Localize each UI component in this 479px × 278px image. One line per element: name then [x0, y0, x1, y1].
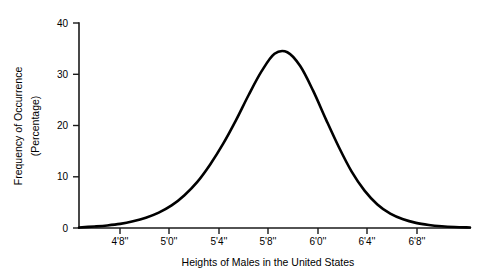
y-axis-title-line1: Frequency of Occurrence: [12, 67, 24, 186]
x-tick-label-4-8: 4'8'': [112, 236, 129, 247]
x-tick-label-5-0: 5'0'': [161, 236, 178, 247]
x-axis-title: Heights of Males in the United States: [182, 256, 355, 268]
x-tick-label-6-0: 6'0'': [310, 236, 327, 247]
x-tick-label-6-8: 6'8'': [409, 236, 426, 247]
x-tick-label-6-4: 6'4'': [359, 236, 376, 247]
x-tick-label-5-8: 5'8'': [260, 236, 277, 247]
y-tick-label-10: 10: [57, 171, 69, 182]
y-tick-label-20: 20: [57, 120, 69, 131]
x-tick-marks: [120, 228, 417, 234]
y-tick-marks: [73, 23, 79, 228]
frequency-curve: [79, 51, 470, 228]
chart-figure: 0 10 20 30 40 4'8'' 5'0'' 5'4'' 5'8'' 6'…: [0, 0, 479, 278]
normal-distribution-chart: 0 10 20 30 40 4'8'' 5'0'' 5'4'' 5'8'' 6'…: [0, 0, 479, 278]
y-tick-label-40: 40: [57, 18, 69, 29]
y-tick-label-30: 30: [57, 69, 69, 80]
y-tick-label-0: 0: [62, 223, 68, 234]
x-tick-label-5-4: 5'4'': [211, 236, 228, 247]
y-axis-title-line2: (Percentage): [29, 96, 41, 157]
